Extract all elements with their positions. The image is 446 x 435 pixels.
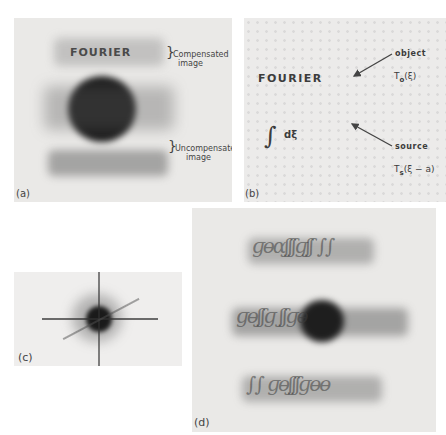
panel-b-label: (b) (245, 188, 259, 199)
object-function: To(ξ) (394, 71, 416, 84)
panel-c: (c) (14, 272, 182, 366)
panel-b: FOURIER ∫ dξ object To(ξ) source Ts(ξ − … (244, 18, 446, 202)
lower-script-text: ∫∫ ɡɵʃʃʃɡɵɵ (246, 372, 329, 396)
compensated-line2: image (178, 59, 203, 68)
upper-script-text: ɡɵɑʃʃʃɡʃʃ ∫∫ (252, 234, 334, 258)
uncompensated-line2: image (186, 153, 211, 162)
compensated-word: FOURIER (70, 46, 131, 59)
panel-d-label: (d) (194, 416, 210, 429)
panel-a-label: (a) (16, 188, 30, 199)
panel-a: FOURIER } Compensated image } Uncompensa… (14, 18, 232, 202)
uncompensated-image-smear (48, 150, 168, 176)
source-func-arg: (ξ − a) (404, 164, 435, 174)
source-label: source (395, 142, 428, 151)
middle-script-text: ɡɵʃʃɡ ʃʃɡɵ (236, 304, 307, 328)
compensated-line1: Compensated (173, 50, 229, 59)
object-label: object (395, 49, 426, 58)
uncompensated-line1: Uncompensated (175, 144, 232, 153)
source-function: Ts(ξ − a) (394, 164, 435, 177)
panel-c-label: (c) (18, 351, 33, 364)
object-func-arg: (ξ) (404, 71, 416, 81)
central-spot-halo (44, 86, 174, 130)
source-arrow (352, 124, 392, 146)
panel-d: ɡɵɑʃʃʃɡʃʃ ∫∫ ɡɵʃʃɡ ʃʃɡɵ ∫∫ ɡɵʃʃʃɡɵɵ (d) (192, 208, 436, 432)
object-arrow (354, 54, 392, 76)
